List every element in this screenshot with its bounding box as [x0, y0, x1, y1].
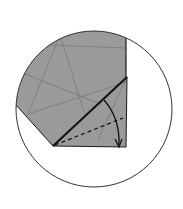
origami-diagram — [0, 0, 183, 209]
paper-model — [0, 20, 127, 147]
paper-body — [0, 20, 127, 147]
